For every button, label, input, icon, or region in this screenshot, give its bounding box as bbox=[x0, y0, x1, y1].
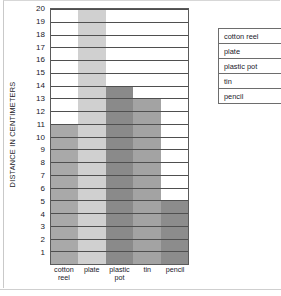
legend-row: plastic pot bbox=[219, 59, 281, 74]
bar-pencil bbox=[161, 200, 188, 264]
x-tick-label-plastic-pot: plasticpot bbox=[106, 266, 134, 283]
plot-area bbox=[50, 8, 189, 265]
x-tick-label-line: reel bbox=[51, 274, 77, 282]
y-tick-label: 13 bbox=[36, 93, 45, 102]
legend-label: tin bbox=[219, 77, 232, 86]
y-tick-label: 7 bbox=[41, 171, 45, 180]
y-tick-label: 5 bbox=[41, 196, 45, 205]
bar-tin bbox=[133, 98, 160, 264]
legend-row: tin bbox=[219, 74, 281, 89]
bar-plastic-pot bbox=[106, 86, 133, 265]
legend-row: cotton reel bbox=[219, 29, 281, 44]
legend-label: pencil bbox=[219, 92, 243, 101]
y-tick-label: 2 bbox=[41, 235, 45, 244]
y-tick-label: 17 bbox=[36, 42, 45, 51]
x-tick-label-line: plate bbox=[79, 266, 105, 274]
x-tick-label-line: tin bbox=[134, 266, 160, 274]
y-tick-label: 11 bbox=[37, 119, 45, 128]
bar-chart: DISTANCE IN CENTIMETERS 2019181716151413… bbox=[0, 0, 205, 296]
y-tick-label: 19 bbox=[36, 16, 45, 25]
y-tick-label: 3 bbox=[41, 222, 45, 231]
y-tick-label: 9 bbox=[41, 145, 45, 154]
y-tick-label: 6 bbox=[41, 183, 45, 192]
legend-label: cotton reel bbox=[219, 32, 259, 41]
y-tick-label: 4 bbox=[41, 209, 45, 218]
y-tick-label: 8 bbox=[41, 158, 45, 167]
x-tick-label-plate: plate bbox=[78, 266, 106, 283]
x-tick-label-line: pencil bbox=[162, 266, 188, 274]
legend-label: plastic pot bbox=[219, 62, 257, 71]
y-tick-label: 20 bbox=[36, 4, 45, 13]
x-axis-tick-labels: cottonreelplateplasticpottinpencil bbox=[50, 266, 189, 283]
bar-plate bbox=[78, 9, 105, 264]
y-tick-label: 18 bbox=[36, 29, 45, 38]
x-tick-label-pencil: pencil bbox=[161, 266, 189, 283]
x-tick-label-tin: tin bbox=[133, 266, 161, 283]
x-tick-label-line: pot bbox=[107, 274, 133, 282]
y-tick-label: 14 bbox=[36, 81, 45, 90]
y-tick-label: 1 bbox=[41, 248, 45, 257]
bar-series bbox=[51, 9, 188, 264]
legend-label: plate bbox=[219, 47, 240, 56]
y-tick-label: 15 bbox=[36, 68, 45, 77]
x-tick-label-cotton-reel: cottonreel bbox=[50, 266, 78, 283]
y-tick-label: 12 bbox=[36, 106, 45, 115]
legend-row: plate bbox=[219, 44, 281, 59]
y-tick-label: 16 bbox=[36, 55, 45, 64]
bar-cotton-reel bbox=[51, 124, 78, 264]
legend-table: cotton reelplateplastic pottinpencil bbox=[218, 28, 281, 104]
legend-row: pencil bbox=[219, 89, 281, 104]
y-axis-tick-labels: 2019181716151413121110987654321 bbox=[0, 8, 48, 265]
y-tick-label: 10 bbox=[36, 132, 45, 141]
